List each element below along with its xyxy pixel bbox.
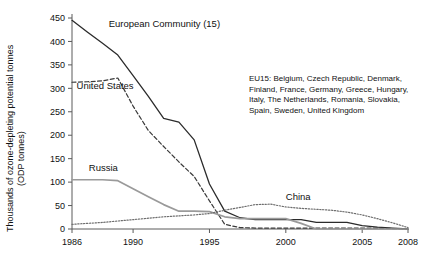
y-axis-title-line1: Thousands of ozone-depleting potential t… bbox=[5, 44, 15, 232]
eu15-annotation-line: EU15: Belgium, Czech Republic, Denmark, bbox=[249, 74, 402, 83]
y-tick-label: 400 bbox=[50, 37, 65, 47]
x-tick-label: 2008 bbox=[398, 237, 418, 247]
x-tick-label: 1990 bbox=[123, 237, 143, 247]
y-tick-label: 50 bbox=[55, 201, 65, 211]
series-group bbox=[72, 20, 408, 229]
y-axis-title-line2: (ODP tonnes) bbox=[16, 131, 26, 186]
x-tick-label: 1995 bbox=[199, 237, 219, 247]
line-chart: Thousands of ozone-depleting potential t… bbox=[0, 0, 421, 262]
y-tick-label: 450 bbox=[50, 13, 65, 23]
y-tick-label: 150 bbox=[50, 154, 65, 164]
eu15-annotation: EU15: Belgium, Czech Republic, Denmark,F… bbox=[249, 74, 408, 115]
y-tick-label: 250 bbox=[50, 107, 65, 117]
eu15-annotation-line: Spain, Sweden, United Kingdom bbox=[249, 106, 365, 115]
x-tick-group: 198619901995200020052008 bbox=[62, 229, 418, 247]
x-tick-label: 2000 bbox=[276, 237, 296, 247]
series-line-russia bbox=[72, 180, 408, 229]
series-label-european-community-15: European Community (15) bbox=[109, 18, 220, 29]
y-tick-label: 350 bbox=[50, 60, 65, 70]
series-label-united-states: United States bbox=[77, 80, 134, 91]
series-label-china: China bbox=[286, 191, 312, 202]
eu15-annotation-line: Italy, The Netherlands, Romania, Slovaki… bbox=[249, 95, 400, 104]
series-label-russia: Russia bbox=[89, 162, 119, 173]
y-tick-group: 050100150200250300350400450 bbox=[50, 13, 72, 234]
y-axis-title: Thousands of ozone-depleting potential t… bbox=[5, 44, 26, 232]
chart-container: Thousands of ozone-depleting potential t… bbox=[0, 0, 421, 262]
x-tick-label: 1986 bbox=[62, 237, 82, 247]
y-tick-label: 300 bbox=[50, 84, 65, 94]
eu15-annotation-line: Finland, France, Germany, Greece, Hungar… bbox=[249, 85, 408, 94]
x-tick-label: 2005 bbox=[352, 237, 372, 247]
axes bbox=[72, 14, 408, 229]
series-line-european-community-15 bbox=[72, 20, 408, 229]
y-tick-label: 100 bbox=[50, 177, 65, 187]
y-tick-label: 0 bbox=[60, 224, 65, 234]
y-tick-label: 200 bbox=[50, 130, 65, 140]
